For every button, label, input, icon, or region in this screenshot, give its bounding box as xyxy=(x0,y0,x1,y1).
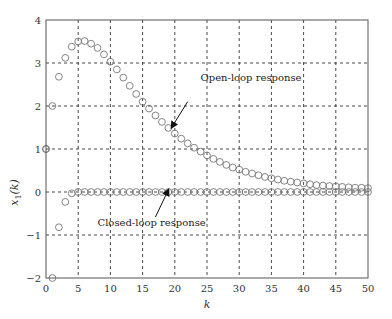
data-point-marker xyxy=(262,174,269,181)
x-tick-label: 40 xyxy=(297,283,310,294)
data-point-marker xyxy=(165,125,172,132)
y-tick-label: 1 xyxy=(35,144,41,155)
y-tick-label: −2 xyxy=(26,273,41,284)
annotation-label: Open-loop response xyxy=(201,72,302,83)
data-point-marker xyxy=(255,172,262,179)
y-tick-label: 0 xyxy=(35,187,41,198)
annotations: Open-loop responseClosed-loop response xyxy=(98,72,302,228)
data-point-marker xyxy=(223,162,230,169)
data-point-marker xyxy=(62,54,69,61)
data-point-marker xyxy=(242,168,249,175)
data-point-marker xyxy=(113,66,120,73)
data-point-marker xyxy=(287,178,294,185)
x-tick-label: 30 xyxy=(233,283,246,294)
annotation-label: Closed-loop response xyxy=(98,217,206,228)
data-point-marker xyxy=(55,73,62,80)
y-tick-label: −1 xyxy=(26,230,41,241)
chart: 05101520253035404550 −2−101234 k x1(k) O… xyxy=(0,0,392,319)
data-point-marker xyxy=(210,155,217,162)
x-axis-ticks: 05101520253035404550 xyxy=(43,283,375,294)
data-point-marker xyxy=(101,51,108,58)
y-axis-ticks: −2−101234 xyxy=(26,15,41,284)
x-tick-label: 25 xyxy=(201,283,214,294)
data-point-marker xyxy=(133,91,140,98)
x-axis-label: k xyxy=(204,298,211,311)
data-point-marker xyxy=(229,164,236,171)
arrow-icon xyxy=(155,190,168,217)
data-point-marker xyxy=(68,190,75,197)
grid-lines xyxy=(46,20,368,278)
x-tick-label: 5 xyxy=(75,283,81,294)
data-point-marker xyxy=(88,40,95,47)
y-tick-label: 2 xyxy=(35,101,41,112)
data-point-marker xyxy=(159,119,166,126)
data-point-marker xyxy=(307,181,314,188)
data-point-marker xyxy=(178,135,185,142)
data-point-marker xyxy=(191,144,198,151)
data-point-marker xyxy=(94,45,101,52)
x-tick-label: 20 xyxy=(168,283,181,294)
data-point-marker xyxy=(184,140,191,147)
x-tick-label: 50 xyxy=(362,283,375,294)
annotation-closed-loop: Closed-loop response xyxy=(98,190,206,229)
data-point-marker xyxy=(313,182,320,189)
series-open-loop xyxy=(43,38,372,192)
data-point-marker xyxy=(197,148,204,155)
y-axis-label-tail: (k) xyxy=(8,179,21,194)
data-point-marker xyxy=(55,224,62,231)
data-point-marker xyxy=(62,198,69,205)
x-tick-label: 45 xyxy=(329,283,342,294)
x-tick-label: 0 xyxy=(43,283,49,294)
data-point-marker xyxy=(281,177,288,184)
y-axis-label: x1(k) xyxy=(8,179,23,206)
data-point-marker xyxy=(126,82,133,89)
data-point-marker xyxy=(81,38,88,45)
x-tick-label: 15 xyxy=(136,283,149,294)
data-point-marker xyxy=(152,112,159,119)
data-point-marker xyxy=(216,159,223,166)
x-tick-label: 10 xyxy=(104,283,117,294)
data-point-marker xyxy=(120,74,127,81)
data-point-marker xyxy=(320,182,327,189)
data-point-marker xyxy=(274,176,281,183)
data-point-marker xyxy=(68,43,75,50)
data-point-marker xyxy=(294,179,301,186)
data-point-marker xyxy=(249,170,256,177)
y-tick-label: 3 xyxy=(35,58,41,69)
x-tick-label: 35 xyxy=(265,283,278,294)
annotation-open-loop: Open-loop response xyxy=(172,72,302,127)
y-tick-label: 4 xyxy=(35,15,41,26)
